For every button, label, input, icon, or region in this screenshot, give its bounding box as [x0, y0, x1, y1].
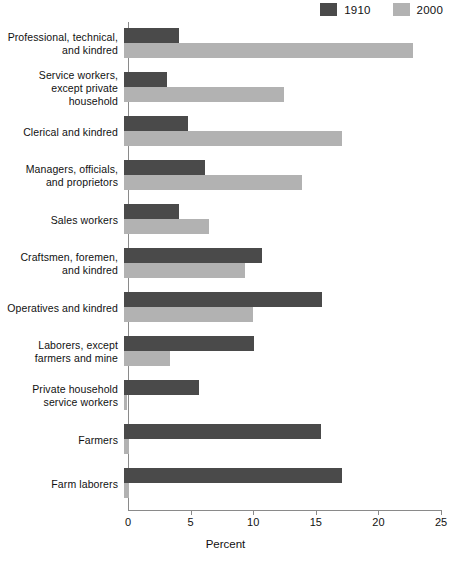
bar-1910 [124, 28, 179, 43]
bar-2000 [124, 219, 209, 234]
bars-holder [124, 462, 451, 506]
bars-holder [124, 330, 451, 374]
bar-1910 [124, 72, 167, 87]
bars-holder [124, 374, 451, 418]
category-label: Laborers, except farmers and mine [0, 339, 124, 365]
category-label: Professional, technical, and kindred [0, 31, 124, 57]
category-label: Sales workers [0, 214, 124, 227]
bar-group: Farmers [0, 418, 451, 462]
category-label: Operatives and kindred [0, 302, 124, 315]
bar-group: Craftsmen, foremen, and kindred [0, 242, 451, 286]
bars-holder [124, 110, 451, 154]
x-tick-mark [253, 510, 254, 515]
bar-group: Farm laborers [0, 462, 451, 506]
bar-2000 [124, 307, 253, 322]
bars-holder [124, 154, 451, 198]
category-label: Farm laborers [0, 478, 124, 491]
x-axis-line [128, 510, 441, 511]
legend-entry-2000: 2000 [393, 3, 443, 16]
bar-group: Sales workers [0, 198, 451, 242]
category-label: Service workers, except private househol… [0, 69, 124, 108]
category-label: Clerical and kindred [0, 126, 124, 139]
x-tick-mark [191, 510, 192, 515]
x-axis-title: Percent [0, 538, 451, 550]
x-tick-label: 10 [247, 516, 259, 528]
bar-2000 [124, 175, 302, 190]
bar-1910 [124, 380, 199, 395]
legend-swatch-icon-2000 [393, 3, 410, 16]
bar-2000 [124, 395, 127, 410]
x-tick-label: 15 [310, 516, 322, 528]
legend-swatch-icon-1910 [320, 3, 337, 16]
category-label: Farmers [0, 434, 124, 447]
x-tick-label: 20 [372, 516, 384, 528]
legend-label: 1910 [344, 4, 370, 16]
category-label: Craftsmen, foremen, and kindred [0, 251, 124, 277]
bars-holder [124, 66, 451, 110]
bar-2000 [124, 483, 129, 498]
bars-holder [124, 286, 451, 330]
bar-2000 [124, 87, 284, 102]
bar-rows: Professional, technical, and kindredServ… [0, 22, 451, 506]
bar-group: Private household service workers [0, 374, 451, 418]
bar-1910 [124, 204, 179, 219]
x-tick-mark [441, 510, 442, 515]
x-tick-mark [378, 510, 379, 515]
bar-2000 [124, 263, 245, 278]
bar-1910 [124, 160, 205, 175]
bar-1910 [124, 292, 322, 307]
bar-group: Clerical and kindred [0, 110, 451, 154]
bar-1910 [124, 424, 321, 439]
bars-holder [124, 242, 451, 286]
x-tick-label: 5 [188, 516, 194, 528]
chart-legend: 19102000 [320, 3, 443, 16]
bar-chart: 19102000 Professional, technical, and ki… [0, 0, 451, 564]
bars-holder [124, 418, 451, 462]
bar-group: Service workers, except private househol… [0, 66, 451, 110]
legend-label: 2000 [417, 4, 443, 16]
bars-holder [124, 198, 451, 242]
bar-1910 [124, 116, 188, 131]
bar-1910 [124, 336, 254, 351]
category-label: Managers, officials, and proprietors [0, 163, 124, 189]
bar-group: Laborers, except farmers and mine [0, 330, 451, 374]
bar-2000 [124, 131, 342, 146]
bar-group: Managers, officials, and proprietors [0, 154, 451, 198]
bar-1910 [124, 468, 342, 483]
x-tick-label: 0 [125, 516, 131, 528]
category-label: Private household service workers [0, 383, 124, 409]
bar-group: Operatives and kindred [0, 286, 451, 330]
bar-group: Professional, technical, and kindred [0, 22, 451, 66]
bars-holder [124, 22, 451, 66]
bar-1910 [124, 248, 262, 263]
bar-2000 [124, 43, 413, 58]
bar-2000 [124, 439, 129, 454]
x-tick-mark [316, 510, 317, 515]
legend-entry-1910: 1910 [320, 3, 370, 16]
plot-area: Professional, technical, and kindredServ… [0, 22, 451, 512]
x-tick-label: 25 [435, 516, 447, 528]
bar-2000 [124, 351, 170, 366]
